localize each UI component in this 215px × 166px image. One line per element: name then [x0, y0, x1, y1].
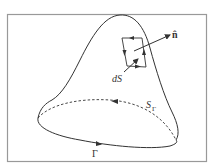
- surface-name-label: S: [146, 99, 151, 110]
- normal-label: n̂: [172, 29, 178, 40]
- patch-arrow-left: [123, 50, 127, 56]
- boundary-label: Γ: [92, 148, 98, 159]
- surface-outline: [38, 15, 178, 140]
- patch-arrow-top: [129, 36, 134, 40]
- diagram-figure: n̂ dS S Γ Γ: [0, 0, 215, 166]
- surface-subscript-label: Γ: [152, 105, 156, 113]
- normal-vector-arrow: [134, 35, 170, 51]
- patch-arrow-bottom: [135, 65, 141, 69]
- boundary-curve-gamma: [38, 118, 177, 148]
- surface-element-label: dS: [112, 73, 122, 84]
- patch-arrow-right: [142, 49, 146, 55]
